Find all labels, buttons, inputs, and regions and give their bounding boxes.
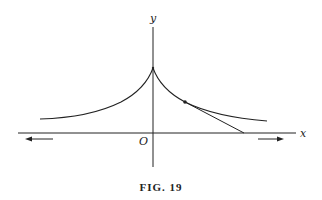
y-axis-label: y (149, 12, 157, 25)
tractrix-diagram: y x O FIG. 19 (0, 0, 322, 200)
tractrix-left-branch (40, 68, 153, 119)
cusp-point (152, 67, 154, 69)
left-arrow-icon (25, 137, 53, 142)
origin-label: O (139, 135, 148, 148)
figure-caption: FIG. 19 (139, 181, 182, 193)
marked-point (183, 100, 187, 104)
right-arrow-icon (258, 137, 284, 142)
tractrix-right-branch (153, 68, 267, 121)
x-axis-label: x (300, 127, 307, 140)
